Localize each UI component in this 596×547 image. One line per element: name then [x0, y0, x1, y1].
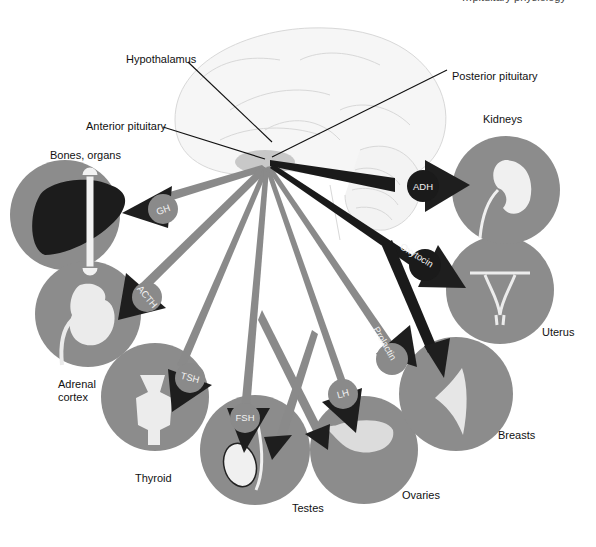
anterior-pituitary-label: Anterior pituitary: [86, 120, 166, 133]
thyroid-label: Thyroid: [135, 472, 172, 485]
testes-label: Testes: [292, 502, 324, 515]
adrenal-cortex-label-line1: Adrenal: [58, 378, 96, 391]
fsh-label: FSH: [236, 412, 255, 423]
adrenal-cortex-label-line2: cortex: [58, 391, 88, 404]
fsh-arrow-shaft: [241, 167, 269, 410]
hypothalamus-label: Hypothalamus: [126, 53, 196, 66]
kidneys-label: Kidneys: [483, 113, 522, 126]
adh-label: ADH: [413, 181, 433, 192]
uterus-circle[interactable]: [446, 236, 554, 344]
ovaries-label: Ovaries: [402, 489, 440, 502]
breasts-label: Breasts: [498, 429, 535, 442]
posterior-pituitary-label: Posterior pituitary: [452, 70, 538, 83]
brain-illustration: [175, 28, 446, 240]
bones-organs-label: Bones, organs: [50, 149, 121, 162]
uterus-label: Uterus: [542, 326, 574, 339]
